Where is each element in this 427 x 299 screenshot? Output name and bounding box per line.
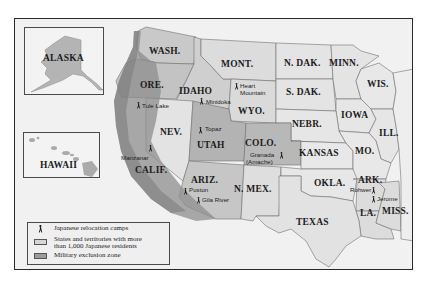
map-legend: Japanese relocation camps States and ter…	[27, 222, 170, 265]
label-nebr: NEBR.	[292, 119, 322, 129]
label-hawaii: HAWAII	[40, 160, 77, 170]
hawaii-inset: HAWAII	[23, 132, 100, 178]
label-mo: MO.	[355, 146, 374, 156]
label-ariz: ARIZ.	[191, 175, 218, 185]
camp-label-granada-2: (Amache)	[246, 158, 273, 165]
camp-label-tule-lake: Tule Lake	[142, 102, 170, 109]
alaska-shape	[31, 36, 103, 92]
legend-item-exclusion: Military exclusion zone	[34, 252, 163, 259]
label-colo: COLO.	[245, 138, 276, 148]
legend-swatch-exclusion	[34, 253, 47, 259]
label-wash: WASH.	[149, 46, 180, 56]
legend-label-residents: States and territories with more than 1,…	[54, 236, 142, 250]
label-alaska: ALASKA	[43, 53, 84, 63]
label-idaho: IDAHO	[179, 86, 212, 96]
person-walking-icon	[34, 225, 47, 234]
legend-label-camps: Japanese relocation camps	[54, 225, 128, 232]
hawaii-islands	[29, 137, 98, 177]
label-wyo: WYO.	[238, 106, 265, 116]
camp-label-minidoka: Minidoka	[206, 98, 231, 105]
camp-label-heart-mountain-1: Heart	[240, 82, 255, 89]
label-wis: WIS.	[367, 79, 389, 89]
label-nev: NEV.	[160, 127, 182, 137]
camp-label-gila-river: Gila River	[202, 196, 229, 203]
camp-label-granada-1: Granada	[250, 151, 275, 158]
label-nmex: N. MEX.	[234, 184, 272, 194]
alaska-inset: ALASKA	[24, 27, 104, 95]
legend-label-residents-line2: than 1,000 Japanese residents	[54, 243, 142, 250]
label-minn: MINN.	[329, 58, 359, 68]
label-la: LA.	[360, 208, 376, 218]
camp-label-rohwer: Rohwer	[350, 186, 371, 193]
legend-swatch-residents	[34, 239, 47, 245]
label-ark: ARK.	[358, 175, 382, 185]
label-calif: CALIF.	[135, 165, 167, 175]
label-sdak: S. DAK.	[286, 87, 321, 97]
camp-label-jerome: Jerome	[377, 195, 398, 202]
label-texas: TEXAS	[296, 217, 329, 227]
legend-item-residents: States and territories with more than 1,…	[34, 236, 163, 250]
label-ore: ORE.	[140, 80, 164, 90]
camp-label-topaz: Topaz	[205, 125, 222, 132]
camp-label-manzanar: Manzanar	[121, 154, 149, 161]
legend-item-camps: Japanese relocation camps	[34, 225, 163, 234]
label-okla: OKLA.	[314, 178, 345, 188]
label-ndak: N. DAK.	[284, 58, 321, 68]
camp-label-heart-mountain-2: Mountain	[240, 89, 266, 96]
label-utah: UTAH	[197, 140, 225, 150]
label-kansas: KANSAS	[299, 148, 339, 158]
label-ill: ILL.	[379, 128, 399, 138]
label-miss: MISS.	[382, 206, 409, 216]
camp-label-poston: Poston	[189, 186, 209, 193]
label-mont: MONT.	[221, 59, 253, 69]
legend-label-exclusion: Military exclusion zone	[54, 252, 120, 259]
label-iowa: IOWA	[341, 110, 368, 120]
